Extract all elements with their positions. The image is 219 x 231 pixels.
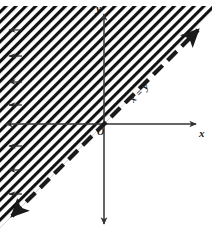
inequality-graph-figure: y x O x = y	[0, 0, 219, 231]
x-axis-label: x	[199, 128, 205, 139]
y-axis-label: y	[96, 3, 101, 14]
graph-canvas	[0, 0, 219, 231]
origin-label: O	[97, 127, 104, 137]
